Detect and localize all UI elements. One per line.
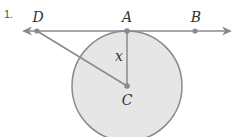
problem-number: 1.	[4, 8, 13, 20]
point-c	[124, 83, 130, 89]
label-a: A	[120, 9, 132, 25]
geometry-diagram: 1. D A B x C	[0, 0, 251, 137]
point-d	[34, 28, 39, 33]
point-b	[192, 28, 197, 33]
point-a	[124, 28, 130, 34]
label-d: D	[31, 9, 43, 25]
label-c: C	[122, 92, 133, 108]
label-x: x	[115, 48, 123, 64]
label-b: B	[190, 9, 201, 25]
